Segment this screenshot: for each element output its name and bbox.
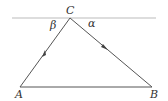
arrow-icon-ac [42, 50, 46, 57]
vertex-label-a: A [14, 88, 23, 101]
side-cb [70, 18, 152, 87]
vertex-label-b: B [149, 88, 158, 101]
vertex-label-c: C [66, 4, 75, 17]
angle-label-alpha: α [88, 17, 96, 30]
triangle-diagram: C A B β α [0, 0, 168, 101]
angle-label-beta: β [49, 19, 56, 32]
